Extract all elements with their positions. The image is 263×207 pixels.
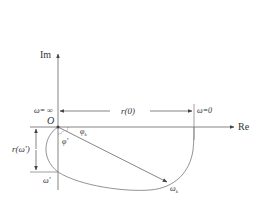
nyquist-diagram: Im Re O ω= ∞ r(0) ω=0 r(ω′) ω′ φ′ φk ωk [0,0,263,207]
omega-k-label: ωk [170,184,179,194]
phi-prime-label: φ′ [62,137,68,146]
omega-prime-label: ω′ [43,176,51,185]
omega-zero-label: ω=0 [197,106,212,115]
imag-axis-label: Im [40,49,51,60]
omega-infinity-label: ω= ∞ [34,106,53,115]
r-omega-prime-label: r(ω′) [12,144,30,154]
phi-prime-arc [58,130,64,134]
omega-k-vector [58,127,167,182]
real-axis-label: Re [238,121,250,132]
phi-k-label: φk [80,127,87,137]
r0-label: r(0) [121,106,135,116]
origin-point [57,126,60,129]
r-omega-prime-dimension [30,129,58,172]
origin-label: O [47,115,54,126]
